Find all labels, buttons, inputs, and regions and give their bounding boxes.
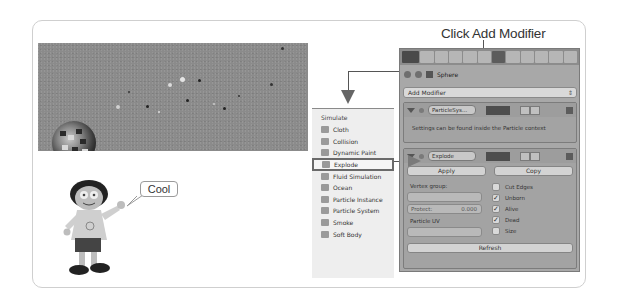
particle-instance-icon bbox=[321, 196, 329, 203]
particle-system-modifier: ParticleSys... Settings can be found ins… bbox=[403, 102, 577, 143]
tab-world[interactable] bbox=[435, 51, 448, 63]
scene-icon bbox=[404, 71, 411, 78]
menu-item-ocean[interactable]: Ocean bbox=[312, 182, 394, 194]
size-checkbox[interactable]: Size bbox=[492, 225, 573, 236]
particle-system-icon bbox=[321, 207, 329, 214]
context-breadcrumb: Sphere bbox=[404, 69, 458, 79]
explode-icon bbox=[322, 161, 330, 168]
click-add-modifier-caption: Click Add Modifier bbox=[441, 26, 545, 41]
particle bbox=[186, 99, 189, 102]
fluid-icon bbox=[321, 173, 329, 180]
collision-icon bbox=[321, 138, 329, 145]
connector-line bbox=[348, 71, 349, 91]
vertex-group-field[interactable] bbox=[407, 192, 482, 202]
unborn-checkbox[interactable]: ✓Unborn bbox=[492, 192, 573, 203]
menu-item-cloth[interactable]: Cloth bbox=[312, 124, 394, 136]
wrench-icon bbox=[426, 71, 433, 78]
tab-texture[interactable] bbox=[521, 51, 534, 63]
add-modifier-dropdown[interactable]: Add Modifier bbox=[403, 87, 577, 98]
menu-item-collision[interactable]: Collision bbox=[312, 136, 394, 148]
protect-slider[interactable]: Protect:0.000 bbox=[407, 204, 482, 214]
arrow-to-explode-modifier bbox=[408, 155, 421, 167]
visibility-toggles[interactable] bbox=[486, 106, 510, 115]
vertex-group-label: Vertex group: bbox=[407, 181, 488, 191]
particle bbox=[128, 91, 130, 93]
menu-item-fluid-simulation[interactable]: Fluid Simulation bbox=[312, 170, 394, 182]
checkmark-icon: ✓ bbox=[492, 194, 500, 202]
ocean-icon bbox=[321, 184, 329, 191]
modifier-header: Explode bbox=[404, 149, 576, 163]
tab-material[interactable] bbox=[506, 51, 519, 63]
modifier-type-icon bbox=[419, 108, 424, 113]
soft-body-icon bbox=[321, 231, 329, 238]
checkbox-unchecked-icon bbox=[492, 183, 500, 191]
arrow-to-menu bbox=[341, 90, 355, 104]
tab-particles[interactable] bbox=[535, 51, 548, 63]
menu-item-dynamic-paint[interactable]: Dynamic Paint bbox=[312, 147, 394, 159]
tab-extra[interactable] bbox=[564, 51, 577, 63]
checkmark-icon: ✓ bbox=[492, 216, 500, 224]
particle-uv-field[interactable] bbox=[407, 227, 482, 237]
particle bbox=[238, 95, 240, 97]
tab-data[interactable] bbox=[478, 51, 491, 63]
tab-render[interactable] bbox=[402, 51, 419, 63]
smoke-icon bbox=[321, 219, 329, 226]
modifier-name-field[interactable]: Explode bbox=[428, 151, 476, 161]
particle bbox=[168, 83, 172, 87]
copy-button[interactable]: Copy bbox=[494, 166, 573, 176]
remove-modifier-icon[interactable] bbox=[566, 107, 573, 114]
object-icon bbox=[415, 71, 422, 78]
particle bbox=[223, 107, 226, 110]
dead-checkbox[interactable]: ✓Dead bbox=[492, 214, 573, 225]
menu-item-smoke[interactable]: Smoke bbox=[312, 217, 394, 229]
particle bbox=[270, 83, 273, 86]
cut-edges-checkbox[interactable]: Cut Edges bbox=[492, 181, 573, 192]
tab-constraints[interactable] bbox=[463, 51, 476, 63]
menu-item-explode[interactable]: Explode bbox=[313, 159, 393, 171]
properties-panel: Sphere Add Modifier ParticleSys... Setti… bbox=[399, 48, 580, 272]
dynamic-paint-icon bbox=[321, 149, 329, 156]
particle-uv-label: Particle UV bbox=[407, 216, 488, 226]
menu-item-particle-instance[interactable]: Particle Instance bbox=[312, 194, 394, 206]
cloth-icon bbox=[321, 126, 329, 133]
particle bbox=[116, 105, 120, 109]
menu-heading: Simulate bbox=[312, 109, 394, 124]
tab-object[interactable] bbox=[449, 51, 462, 63]
add-modifier-menu: Simulate Cloth Collision Dynamic Paint E… bbox=[312, 108, 394, 278]
checkbox-unchecked-icon bbox=[492, 227, 500, 235]
tab-physics[interactable] bbox=[549, 51, 562, 63]
visibility-toggles[interactable] bbox=[486, 152, 510, 161]
modifier-name-field[interactable]: ParticleSys... bbox=[428, 105, 476, 115]
modifier-info-text: Settings can be found inside the Particl… bbox=[404, 117, 576, 139]
modifier-header: ParticleSys... bbox=[404, 103, 576, 117]
refresh-button[interactable]: Refresh bbox=[407, 243, 573, 253]
particle bbox=[198, 79, 201, 82]
properties-tabs bbox=[400, 49, 579, 65]
context-object-name: Sphere bbox=[437, 71, 458, 78]
collapse-toggle-icon[interactable] bbox=[407, 108, 415, 113]
explode-modifier: Explode Apply Copy Vertex group: Protect… bbox=[403, 148, 577, 269]
menu-item-particle-system[interactable]: Particle System bbox=[312, 205, 394, 217]
move-buttons[interactable] bbox=[520, 152, 540, 161]
particle bbox=[158, 111, 160, 113]
menu-item-soft-body[interactable]: Soft Body bbox=[312, 228, 394, 240]
particle bbox=[180, 77, 185, 82]
particle bbox=[213, 103, 215, 105]
tab-scene[interactable] bbox=[420, 51, 433, 63]
move-buttons[interactable] bbox=[520, 106, 540, 115]
3d-viewport[interactable] bbox=[38, 43, 308, 151]
apply-button[interactable]: Apply bbox=[407, 166, 486, 176]
particle bbox=[281, 47, 284, 50]
particle bbox=[146, 105, 149, 108]
speech-bubble: Cool bbox=[140, 181, 178, 197]
tab-modifiers[interactable] bbox=[492, 51, 505, 63]
remove-modifier-icon[interactable] bbox=[566, 153, 573, 160]
cartoon-character bbox=[55, 178, 135, 283]
alive-checkbox[interactable]: ✓Alive bbox=[492, 203, 573, 214]
checkmark-icon: ✓ bbox=[492, 205, 500, 213]
